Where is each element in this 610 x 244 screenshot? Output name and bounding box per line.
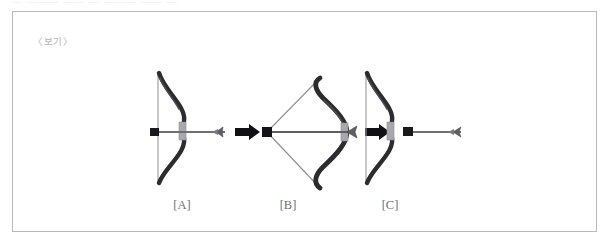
- stage-b-bow-drawn: [262, 78, 357, 188]
- stage-label-b: [B]: [268, 198, 308, 213]
- stage-a-arrow-nock: [150, 128, 159, 136]
- stage-c-bow-grip: [387, 122, 394, 140]
- stage-a-arrow-fletching: [212, 129, 218, 135]
- stage-b-bowstring-lower: [267, 132, 320, 188]
- transition-a-to-b-arrow-icon: [235, 124, 260, 140]
- transition-b-to-c-arrow-icon: [365, 124, 390, 140]
- stage-a-bow-relaxed: [150, 72, 225, 184]
- stage-b-bowstring-upper: [267, 78, 320, 132]
- stage-b-arrow-nock: [262, 127, 272, 137]
- figure-frame: 〈보기〉: [12, 11, 597, 232]
- stage-c-bow-limb-highlight: [368, 78, 387, 109]
- stage-c-arrow-fletching: [448, 129, 454, 135]
- stage-a-bow-limb-highlight: [160, 78, 179, 109]
- clipped-top-text: — ——— —— — ——— —— —: [12, 0, 572, 6]
- stage-label-c: [C]: [370, 198, 410, 213]
- stage-label-a: [A]: [162, 198, 202, 213]
- stage-c-arrow-nock: [403, 127, 413, 136]
